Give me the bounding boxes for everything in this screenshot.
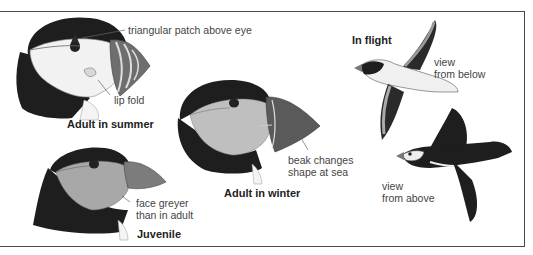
flight-view-above	[396, 108, 512, 222]
label-triangular-patch: triangular patch above eye	[128, 24, 252, 36]
label-lip-fold: lip fold	[114, 94, 144, 106]
caption-adult-summer: Adult in summer	[67, 118, 154, 130]
label-below-line1: view	[434, 56, 455, 68]
label-beak-line1: beak changes	[288, 154, 353, 166]
label-beak-line2: shape at sea	[288, 166, 348, 178]
caption-adult-winter: Adult in winter	[224, 187, 300, 199]
juvenile-head	[33, 147, 166, 240]
caption-in-flight: In flight	[352, 34, 392, 46]
label-above-line2: from above	[382, 192, 435, 204]
caption-juvenile: Juvenile	[137, 228, 181, 240]
label-face-line2: than in adult	[136, 209, 193, 221]
label-above-line1: view	[382, 180, 403, 192]
label-below-line2: from below	[434, 68, 485, 80]
label-face-line1: face greyer	[136, 197, 189, 209]
